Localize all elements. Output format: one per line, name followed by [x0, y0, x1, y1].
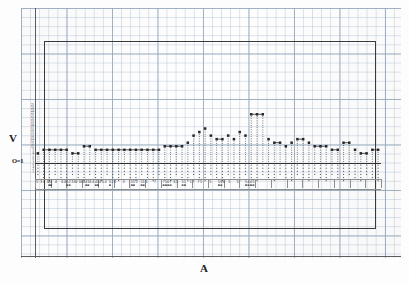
fringe-dot — [49, 168, 50, 169]
fringe-dot — [233, 171, 234, 172]
x-tick-label: 34 — [48, 180, 52, 185]
fringe-dot — [164, 177, 165, 178]
fringe-dot — [49, 177, 50, 178]
fringe-dot — [320, 174, 321, 175]
fringe-dot — [49, 165, 50, 166]
stem-column — [354, 149, 357, 164]
fringe-dot — [124, 168, 125, 169]
fringe-dot — [274, 168, 275, 169]
x-tick-label: 2 — [111, 180, 113, 185]
fringe-dot — [314, 171, 315, 172]
fringe-dot — [112, 168, 113, 169]
fringe-dot — [210, 171, 211, 172]
fringe-dot — [349, 174, 350, 175]
stem-column — [348, 141, 351, 164]
fringe-dot — [210, 168, 211, 169]
fringe-dot — [331, 168, 332, 169]
fringe-dot — [205, 174, 206, 175]
fringe-dot — [245, 165, 246, 166]
x-tick-label: 1 — [143, 180, 145, 185]
fringe-dot — [378, 165, 379, 166]
x-tick-label: 6 — [173, 180, 175, 185]
x-tick-label: 5 — [36, 180, 38, 185]
stem-column — [112, 149, 115, 164]
fringe-dot — [78, 177, 79, 178]
fringe-dot — [37, 171, 38, 172]
fringe-dot — [268, 177, 269, 178]
x-tick-label: 6 — [223, 180, 225, 185]
fringe-dot — [72, 174, 73, 175]
x-tick-label: 3 — [123, 180, 125, 185]
fringe-dot — [124, 174, 125, 175]
fringe-dot — [89, 174, 90, 175]
fringe-dot — [233, 177, 234, 178]
fringe-dot — [262, 168, 263, 169]
stem-column — [187, 141, 190, 164]
fringe-dot — [83, 174, 84, 175]
fringe-dot — [205, 168, 206, 169]
data-point-marker — [238, 131, 241, 134]
fringe-dot — [170, 165, 171, 166]
fringe-dot — [343, 168, 344, 169]
fringe-dot — [37, 168, 38, 169]
fringe-dot — [135, 174, 136, 175]
stem-column — [42, 149, 45, 164]
x-tick-label: 4 — [55, 180, 57, 185]
stem-column — [296, 138, 299, 164]
fringe-dot — [153, 168, 154, 169]
x-tick-label: 2 — [136, 180, 138, 185]
fringe-dot — [378, 177, 379, 178]
fringe-dot — [256, 165, 257, 166]
fringe-dot — [176, 168, 177, 169]
fringe-dot — [78, 168, 79, 169]
fringe-dot — [118, 171, 119, 172]
fringe-dot — [256, 177, 257, 178]
stem-column — [290, 141, 293, 164]
fringe-dot — [66, 177, 67, 178]
fringe-dot — [135, 177, 136, 178]
stem-column — [60, 149, 63, 164]
fringe-dot — [118, 165, 119, 166]
fringe-dot — [107, 174, 108, 175]
x-axis-line — [21, 256, 401, 257]
fringe-dot — [360, 168, 361, 169]
fringe-dot — [193, 174, 194, 175]
x-tick-label: 7 — [154, 180, 156, 185]
stem-column — [129, 149, 132, 164]
x-tick-label: 3 4 — [40, 180, 45, 185]
fringe-dot — [95, 165, 96, 166]
fringe-dot — [147, 171, 148, 172]
fringe-dot — [176, 165, 177, 166]
x-tick-label: 7 — [197, 180, 199, 185]
fringe-dot — [268, 165, 269, 166]
origin-label: O=1 — [12, 157, 23, 164]
stem-column — [48, 149, 51, 164]
fringe-dot — [245, 171, 246, 172]
fringe-dot — [360, 174, 361, 175]
fringe-dot — [291, 171, 292, 172]
fringe-dot — [239, 171, 240, 172]
fringe-dot — [216, 168, 217, 169]
fringe-dot — [280, 171, 281, 172]
fringe-dot — [83, 165, 84, 166]
fringe-dot — [251, 177, 252, 178]
fringe-dot — [141, 174, 142, 175]
fringe-dot — [124, 165, 125, 166]
x-tick-label: 5 — [102, 180, 104, 185]
fringe-dot — [280, 168, 281, 169]
x-tick-label: 5 — [228, 180, 230, 185]
fringe-dot — [326, 165, 327, 166]
fringe-dot — [147, 174, 148, 175]
stem-column — [169, 145, 172, 164]
fringe-dot — [326, 174, 327, 175]
fringe-dot — [101, 168, 102, 169]
fringe-dot — [256, 168, 257, 169]
y-tick-label-column: 2524232221201918171615141312111098765432… — [25, 105, 34, 163]
stem-column — [273, 141, 276, 164]
x-tick-label: 2 — [69, 180, 71, 185]
x-tick-label: 5 — [237, 180, 239, 185]
fringe-dot — [285, 171, 286, 172]
stem-column — [256, 113, 259, 164]
fringe-dot — [233, 174, 234, 175]
fringe-dot — [297, 165, 298, 166]
